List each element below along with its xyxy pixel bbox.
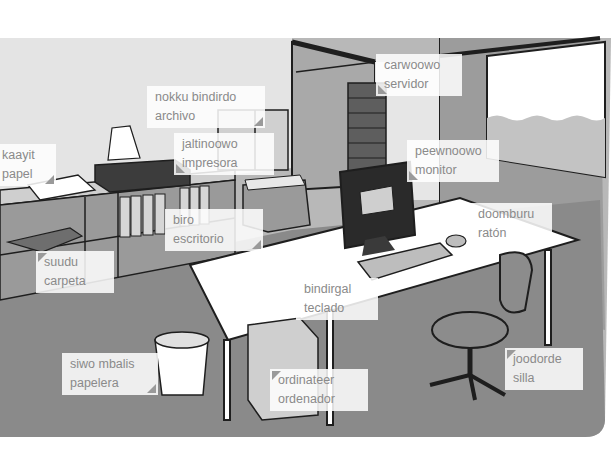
label-keyboard: bindirgal teclado — [296, 278, 378, 320]
pointer-icon — [176, 164, 185, 173]
label-term: suudu — [44, 253, 106, 272]
label-translation: carpeta — [44, 272, 106, 291]
label-translation: escritorio — [173, 230, 255, 249]
pointer-icon — [409, 171, 418, 180]
label-term: biro — [173, 211, 255, 230]
label-translation: papel — [2, 165, 48, 184]
label-term: peewnoowo — [415, 142, 491, 161]
pointer-icon — [272, 371, 281, 380]
label-chair: joodorde silla — [505, 348, 583, 390]
pointer-icon — [252, 240, 261, 249]
label-server: carwoowo servidor — [376, 54, 462, 96]
label-term: jaltinoowo — [182, 135, 266, 154]
label-translation: impresora — [182, 154, 266, 173]
label-folder: suudu carpeta — [36, 251, 114, 293]
label-translation: archivo — [155, 107, 257, 126]
pointer-icon — [45, 175, 54, 184]
pointer-icon — [147, 384, 156, 393]
label-term: joodorde — [513, 350, 575, 369]
label-printer: jaltinoowo impresora — [174, 133, 274, 175]
label-translation: ordenador — [278, 390, 360, 409]
label-mouse: doomburu ratón — [470, 203, 552, 245]
label-translation: ratón — [478, 224, 544, 243]
pointer-icon — [507, 350, 516, 359]
label-term: siwo mbalis — [70, 355, 150, 374]
label-wastebasket: siwo mbalis papelera — [62, 353, 158, 395]
pointer-icon — [38, 253, 47, 262]
pointer-icon — [378, 85, 387, 94]
label-term: bindirgal — [304, 280, 370, 299]
label-desk: biro escritorio — [165, 209, 263, 251]
label-monitor: peewnoowo monitor — [407, 140, 499, 182]
pointer-icon — [254, 117, 263, 126]
label-term: doomburu — [478, 205, 544, 224]
label-translation: teclado — [304, 299, 370, 318]
label-term: carwoowo — [384, 56, 454, 75]
label-term: ordinateer — [278, 371, 360, 390]
mouse-object — [446, 235, 466, 247]
label-translation: papelera — [70, 374, 150, 393]
label-term: kaayit — [2, 146, 48, 165]
label-computer: ordinateer ordenador — [270, 369, 368, 411]
label-paper: kaayit papel — [0, 144, 56, 186]
label-translation: monitor — [415, 161, 491, 180]
label-term: nokku bindirdo — [155, 88, 257, 107]
label-translation: servidor — [384, 75, 454, 94]
label-translation: silla — [513, 369, 575, 388]
label-file-cabinet: nokku bindirdo archivo — [147, 86, 265, 128]
